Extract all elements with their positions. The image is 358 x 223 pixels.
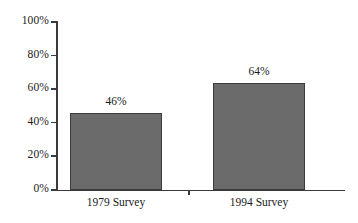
y-axis-tick-60 xyxy=(51,88,56,90)
bar-1994-survey[interactable] xyxy=(213,83,305,191)
y-axis-label-100: 100% xyxy=(3,15,49,27)
y-axis-label-60: 60% xyxy=(3,82,49,94)
bar-value-label-1994: 64% xyxy=(213,66,305,78)
y-axis-label-40: 40% xyxy=(3,116,49,128)
y-axis-tick-40 xyxy=(51,122,56,124)
x-axis-category-label-1979: 1979 Survey xyxy=(62,196,170,208)
bar-1979-survey[interactable] xyxy=(70,113,162,190)
y-axis-label-0: 0% xyxy=(3,183,49,195)
bar-value-label-1979: 46% xyxy=(70,96,162,108)
y-axis-tick-80 xyxy=(51,55,56,57)
y-axis-tick-0 xyxy=(51,189,56,191)
y-axis-tick-20 xyxy=(51,155,56,157)
x-axis-category-label-1994: 1994 Survey xyxy=(205,196,313,208)
y-axis-label-80: 80% xyxy=(3,49,49,61)
y-axis-line xyxy=(56,21,58,191)
bar-chart: 100% 80% 60% 40% 20% 0% 46% 64% 1979 Sur… xyxy=(0,0,358,223)
x-axis-tick-divider xyxy=(188,190,190,195)
y-axis-tick-100 xyxy=(51,21,56,23)
y-axis-label-20: 20% xyxy=(3,149,49,161)
